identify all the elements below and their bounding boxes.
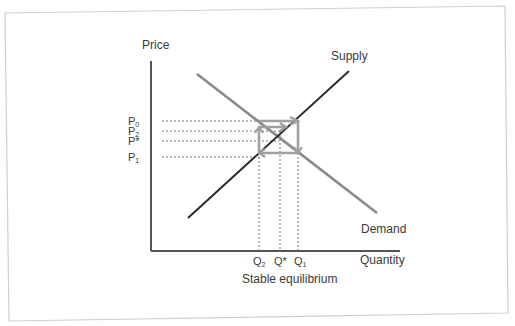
x-axis-label: Quantity xyxy=(360,253,405,267)
demand-label: Demand xyxy=(361,222,406,236)
y-axis-label: Price xyxy=(142,38,170,52)
label-Qstar: Q* xyxy=(274,255,288,267)
label-Pstar: P* xyxy=(128,135,140,147)
cobweb-diagram: Price Quantity Supply Demand Stable equi… xyxy=(0,0,515,326)
caption: Stable equilibrium xyxy=(242,272,337,286)
price-labels: P0 P2 P* P1 xyxy=(128,115,140,164)
supply-label: Supply xyxy=(331,49,368,63)
quantity-labels: Q2 Q* Q1 xyxy=(253,255,307,268)
